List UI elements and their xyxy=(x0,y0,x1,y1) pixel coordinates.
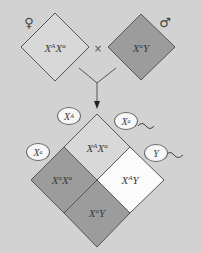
sperm-tail-y xyxy=(166,153,183,158)
offspring-label-left: XaXa xyxy=(52,175,72,186)
inheritance-diagram: ♀ ♂ × XAXa XaY XA Xa Xa Y XAXa XaXa XAY … xyxy=(0,0,202,253)
female-symbol-icon: ♀ xyxy=(24,15,34,30)
gamete-male-y: Y xyxy=(144,144,168,162)
female-genotype-label: XAXa xyxy=(44,43,65,54)
gamete-female-xa: Xa xyxy=(26,143,50,161)
sperm-tail-xa xyxy=(138,124,154,129)
offspring-label-bottom: XaY xyxy=(89,208,105,219)
cross-connector xyxy=(79,68,116,102)
gamete-female-xA: XA xyxy=(57,107,81,125)
offspring-label-right: XAY xyxy=(121,175,138,186)
offspring-label-top: XAXa xyxy=(86,143,107,154)
arrow-down-icon xyxy=(94,101,100,109)
male-symbol-icon: ♂ xyxy=(159,15,171,30)
cross-symbol: × xyxy=(94,43,102,54)
gamete-male-xa: Xa xyxy=(114,112,138,130)
male-genotype-label: XaY xyxy=(133,43,149,54)
